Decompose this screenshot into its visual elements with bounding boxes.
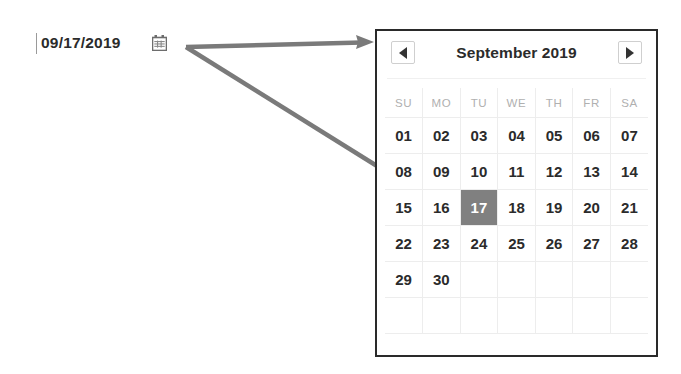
- calendar-day-empty: [498, 262, 536, 298]
- calendar-day-empty: [498, 298, 536, 334]
- calendar-day-empty: [535, 262, 573, 298]
- calendar-day[interactable]: 01: [385, 118, 423, 154]
- calendar-day-empty: [385, 298, 423, 334]
- chevron-right-icon: [626, 47, 634, 59]
- calendar-day-empty: [573, 298, 611, 334]
- calendar-day[interactable]: 25: [498, 226, 536, 262]
- calendar-day[interactable]: 19: [535, 190, 573, 226]
- calendar-week-row: 22232425262728: [385, 226, 648, 262]
- date-input-value: 09/17/2019: [41, 34, 121, 52]
- calendar-day[interactable]: 30: [423, 262, 461, 298]
- calendar-day[interactable]: 08: [385, 154, 423, 190]
- header-divider: [387, 78, 646, 79]
- calendar-day[interactable]: 09: [423, 154, 461, 190]
- calendar-day[interactable]: 26: [535, 226, 573, 262]
- calendar-day[interactable]: 02: [423, 118, 461, 154]
- calendar-day-empty: [460, 262, 498, 298]
- calendar-day[interactable]: 06: [573, 118, 611, 154]
- calendar-day[interactable]: 13: [573, 154, 611, 190]
- text-cursor: [36, 33, 37, 54]
- calendar-day[interactable]: 12: [535, 154, 573, 190]
- calendar-day[interactable]: 03: [460, 118, 498, 154]
- calendar-day[interactable]: 20: [573, 190, 611, 226]
- calendar-week-row: 15161718192021: [385, 190, 648, 226]
- calendar-day[interactable]: 14: [610, 154, 648, 190]
- calendar-day[interactable]: 16: [423, 190, 461, 226]
- calendar-grid: SU MO TU WE TH FR SA 0102030405060708091…: [385, 88, 648, 334]
- calendar-day[interactable]: 27: [573, 226, 611, 262]
- weekday-header: MO: [423, 88, 461, 118]
- calendar-icon[interactable]: [152, 35, 167, 51]
- arrow-to-panel: [186, 35, 374, 49]
- date-input-field[interactable]: 09/17/2019: [36, 30, 167, 56]
- calendar-day-empty: [610, 262, 648, 298]
- weekday-header: SU: [385, 88, 423, 118]
- calendar-day-empty: [573, 262, 611, 298]
- calendar-day[interactable]: 15: [385, 190, 423, 226]
- next-month-button[interactable]: [618, 41, 642, 64]
- calendar-day[interactable]: 29: [385, 262, 423, 298]
- weekday-header: FR: [573, 88, 611, 118]
- calendar-header: September 2019: [377, 31, 656, 74]
- weekday-header-row: SU MO TU WE TH FR SA: [385, 88, 648, 118]
- calendar-day-empty: [460, 298, 498, 334]
- weekday-header: SA: [610, 88, 648, 118]
- calendar-day-empty: [423, 298, 461, 334]
- calendar-month-title: September 2019: [456, 44, 576, 62]
- calendar-day[interactable]: 04: [498, 118, 536, 154]
- calendar-day[interactable]: 18: [498, 190, 536, 226]
- calendar-day[interactable]: 11: [498, 154, 536, 190]
- weekday-header: TU: [460, 88, 498, 118]
- calendar-day[interactable]: 21: [610, 190, 648, 226]
- calendar-day[interactable]: 22: [385, 226, 423, 262]
- calendar-day[interactable]: 07: [610, 118, 648, 154]
- calendar-week-row: 2930: [385, 262, 648, 298]
- calendar-day[interactable]: 05: [535, 118, 573, 154]
- calendar-day-empty: [535, 298, 573, 334]
- previous-month-button[interactable]: [391, 41, 415, 64]
- calendar-week-row: 01020304050607: [385, 118, 648, 154]
- calendar-day[interactable]: 28: [610, 226, 648, 262]
- calendar-day[interactable]: 10: [460, 154, 498, 190]
- calendar-week-row: [385, 298, 648, 334]
- calendar-day-empty: [610, 298, 648, 334]
- calendar-week-row: 08091011121314: [385, 154, 648, 190]
- calendar-popup: September 2019 SU MO TU WE TH FR SA 0102…: [375, 29, 658, 357]
- calendar-day[interactable]: 23: [423, 226, 461, 262]
- calendar-body: 0102030405060708091011121314151617181920…: [385, 118, 648, 334]
- chevron-left-icon: [399, 47, 407, 59]
- weekday-header: WE: [498, 88, 536, 118]
- weekday-header: TH: [535, 88, 573, 118]
- calendar-day-selected[interactable]: 17: [460, 190, 498, 226]
- calendar-day[interactable]: 24: [460, 226, 498, 262]
